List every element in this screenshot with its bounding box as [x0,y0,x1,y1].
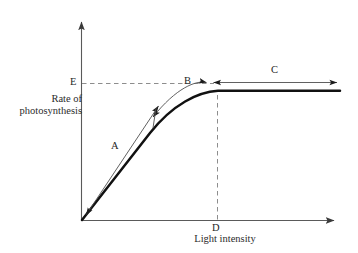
annotation-arrow-a [86,106,159,215]
figure-canvas: Rate ofphotosynthesis Light intensity E … [0,0,358,253]
y-axis-title-line2: photosynthesis [20,105,82,116]
y-axis-title: Rate ofphotosynthesis [8,93,82,118]
label-a-light-limited-region: A [111,140,119,152]
label-d-saturation-intensity: D [212,222,220,234]
label-e-max-rate: E [70,76,76,88]
axes-group [82,22,335,221]
photosynthesis-curve-group [82,91,340,220]
guide-lines-group [82,84,218,220]
y-axis-title-line1: Rate of [51,93,82,104]
x-axis-title: Light intensity [160,233,290,245]
light-response-curve-figure [0,0,358,253]
label-c-saturated-region: C [271,64,278,76]
label-b-transition-region: B [184,75,191,87]
annotation-arrows-group [86,82,337,215]
annotation-arrow-b [153,82,207,117]
photosynthesis-curve [82,91,340,220]
